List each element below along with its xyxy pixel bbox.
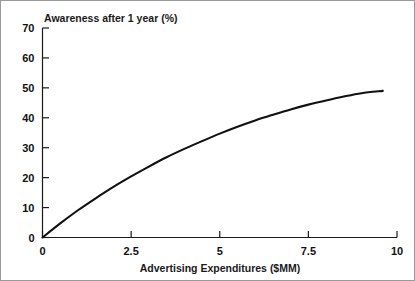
chart-plot-area: Awareness after 1 year (%) 0102030405060… <box>1 1 415 281</box>
chart-figure: Awareness after 1 year (%) 0102030405060… <box>0 0 415 281</box>
y-axis-tick-labels: 010203040506070 <box>22 22 34 244</box>
x-tick-label: 0 <box>39 245 45 257</box>
y-axis-ticks <box>43 28 50 238</box>
y-tick-label: 40 <box>22 112 34 124</box>
y-tick-label: 70 <box>22 22 34 34</box>
x-axis-label: Advertising Expenditures ($MM) <box>140 262 300 274</box>
x-axis-tick-labels: 02.557.510 <box>39 245 403 257</box>
x-tick-label: 5 <box>217 245 223 257</box>
x-tick-label: 7.5 <box>301 245 316 257</box>
x-axis: 02.557.510 <box>39 231 403 257</box>
awareness-response-curve <box>43 91 383 238</box>
x-tick-label: 2.5 <box>123 245 138 257</box>
y-tick-label: 20 <box>22 172 34 184</box>
y-tick-label: 30 <box>22 142 34 154</box>
y-tick-label: 0 <box>28 232 34 244</box>
y-tick-label: 10 <box>22 202 34 214</box>
chart-title: Awareness after 1 year (%) <box>44 12 177 24</box>
x-tick-label: 10 <box>391 245 403 257</box>
y-tick-label: 60 <box>22 52 34 64</box>
y-tick-label: 50 <box>22 82 34 94</box>
y-axis: 010203040506070 <box>22 22 49 244</box>
x-axis-ticks <box>43 231 398 238</box>
